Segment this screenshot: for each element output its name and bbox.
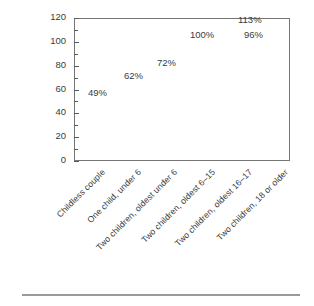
y-tick-mark xyxy=(74,137,79,138)
y-tick-mark xyxy=(74,30,78,31)
y-tick-mark xyxy=(74,113,79,114)
y-tick-mark xyxy=(74,54,78,55)
y-tick-mark xyxy=(74,18,79,19)
y-tick-label: 100 xyxy=(50,35,66,46)
data-label-2: 72% xyxy=(157,57,176,68)
y-tick-mark xyxy=(74,161,79,162)
y-tick-mark xyxy=(74,125,78,126)
bottom-divider xyxy=(22,294,300,296)
y-tick-mark xyxy=(74,149,78,150)
y-tick-label: 20 xyxy=(55,130,66,141)
y-tick-label: 80 xyxy=(55,59,66,70)
y-tick-mark xyxy=(74,101,78,102)
y-tick-mark xyxy=(74,66,79,67)
y-tick-label: 120 xyxy=(50,11,66,22)
y-tick-label: 40 xyxy=(55,106,66,117)
y-tick-mark xyxy=(74,42,79,43)
y-tick-mark xyxy=(74,90,79,91)
y-tick-label: 0 xyxy=(61,154,66,165)
chart-figure: Standard family expenses (percent) 120 1… xyxy=(0,0,314,306)
data-label-0: 49% xyxy=(88,87,107,98)
data-label-3: 100% xyxy=(190,29,214,40)
y-tick-label: 60 xyxy=(55,83,66,94)
data-label-4: 113% xyxy=(238,14,262,25)
y-tick-mark xyxy=(74,78,78,79)
data-label-5: 96% xyxy=(244,29,263,40)
data-label-1: 62% xyxy=(124,70,143,81)
